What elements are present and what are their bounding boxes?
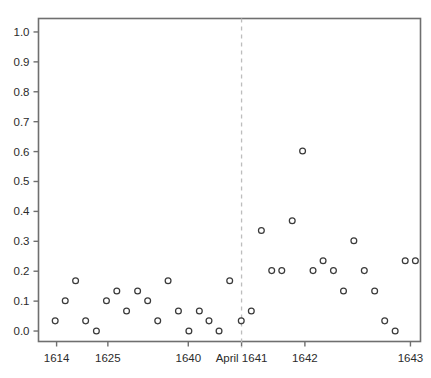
data-point [269, 268, 275, 274]
y-tick-label: 0.0 [14, 325, 30, 337]
data-point [186, 328, 192, 334]
x-axis-tick-labels: 161416251640April 164116421643 [44, 352, 423, 364]
data-point [402, 258, 408, 264]
plot-frame [39, 19, 421, 342]
data-point [227, 278, 233, 284]
data-point [135, 288, 141, 294]
data-point [331, 268, 337, 274]
y-axis-tick-labels: 0.00.10.20.30.40.50.60.70.80.91.0 [14, 26, 31, 337]
data-point [104, 298, 110, 304]
data-point [216, 328, 222, 334]
data-point [114, 288, 120, 294]
y-tick-label: 0.9 [14, 56, 30, 68]
data-point [196, 308, 202, 314]
y-tick-label: 0.4 [14, 205, 31, 217]
data-point [248, 308, 254, 314]
data-point [176, 308, 182, 314]
data-point [392, 328, 398, 334]
y-tick-label: 0.6 [14, 146, 30, 158]
data-point [258, 228, 264, 234]
y-tick-label: 1.0 [14, 26, 30, 38]
scatter-plot: 0.00.10.20.30.40.50.60.70.80.91.0 161416… [0, 0, 431, 378]
y-tick-label: 0.8 [14, 86, 30, 98]
data-points-layer [52, 148, 418, 334]
data-point [155, 318, 161, 324]
data-point [165, 278, 171, 284]
y-tick-label: 0.2 [14, 265, 30, 277]
data-point [361, 268, 367, 274]
data-point [83, 318, 89, 324]
data-point [73, 278, 79, 284]
y-tick-label: 0.7 [14, 116, 30, 128]
data-point [310, 268, 316, 274]
y-tick-label: 0.1 [14, 295, 30, 307]
x-tick-label: 1643 [398, 352, 424, 364]
x-tick-label: 1642 [292, 352, 318, 364]
x-tick-label: 1625 [95, 352, 121, 364]
x-tick-label: 1614 [44, 352, 70, 364]
x-tick-label: 1640 [175, 352, 201, 364]
chart-figure: 0.00.10.20.30.40.50.60.70.80.91.0 161416… [0, 0, 431, 378]
data-point [289, 218, 295, 224]
data-point [145, 298, 151, 304]
data-point [300, 148, 306, 154]
y-tick-label: 0.5 [14, 175, 30, 187]
data-point [279, 268, 285, 274]
data-point [341, 288, 347, 294]
data-point [412, 258, 418, 264]
data-point [206, 318, 212, 324]
x-tick-label: April 1641 [216, 352, 268, 364]
data-point [382, 318, 388, 324]
data-point [320, 258, 326, 264]
data-point [351, 238, 357, 244]
data-point [124, 308, 130, 314]
data-point [52, 318, 58, 324]
y-tick-label: 0.3 [14, 235, 30, 247]
data-point [62, 298, 68, 304]
data-point [372, 288, 378, 294]
data-point [94, 328, 100, 334]
